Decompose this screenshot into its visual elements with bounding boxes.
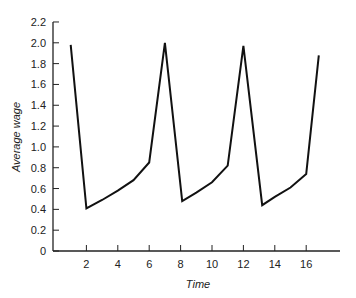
y-tick-label: 1.2	[31, 120, 46, 132]
x-tick-label: 14	[269, 258, 281, 270]
y-tick-label: 2.2	[31, 16, 46, 28]
x-tick-label: 6	[146, 258, 152, 270]
x-tick-label: 10	[206, 258, 218, 270]
x-tick-label: 2	[83, 258, 89, 270]
y-tick-label: 0.8	[31, 162, 46, 174]
y-tick-label: 1.6	[31, 78, 46, 90]
axes: 00.20.40.60.81.01.21.41.61.82.02.2246810…	[31, 16, 340, 270]
y-tick-label: 0.6	[31, 183, 46, 195]
line-chart: 00.20.40.60.81.01.21.41.61.82.02.2246810…	[0, 0, 356, 298]
y-tick-label: 0	[40, 245, 46, 257]
series-line	[71, 43, 319, 209]
y-tick-label: 1.4	[31, 99, 46, 111]
x-tick-label: 16	[300, 258, 312, 270]
y-axis-title: Average wage	[10, 102, 22, 173]
plot-area	[71, 43, 319, 209]
x-axis-title: Time	[186, 278, 210, 290]
y-tick-label: 1.0	[31, 141, 46, 153]
y-tick-label: 2.0	[31, 37, 46, 49]
x-tick-label: 8	[178, 258, 184, 270]
y-tick-label: 0.4	[31, 203, 46, 215]
x-tick-label: 4	[115, 258, 121, 270]
x-tick-label: 12	[237, 258, 249, 270]
y-tick-label: 1.8	[31, 58, 46, 70]
y-tick-label: 0.2	[31, 224, 46, 236]
